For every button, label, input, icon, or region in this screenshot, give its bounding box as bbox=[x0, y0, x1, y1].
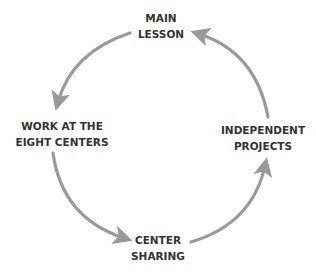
arrow-sharing-to-projects bbox=[191, 166, 265, 242]
arrow-work-to-sharing bbox=[53, 153, 124, 238]
node-independent-projects-line1: INDEPENDENT bbox=[221, 122, 305, 138]
node-work-at-centers: WORK AT THE EIGHT CENTERS bbox=[16, 118, 109, 150]
node-independent-projects: INDEPENDENT PROJECTS bbox=[221, 122, 305, 154]
arrow-projects-to-main bbox=[199, 34, 268, 117]
node-work-at-centers-line2: EIGHT CENTERS bbox=[16, 134, 109, 150]
cycle-diagram: MAIN LESSON WORK AT THE EIGHT CENTERS CE… bbox=[0, 0, 316, 275]
node-main-lesson-line1: MAIN bbox=[138, 10, 184, 26]
node-work-at-centers-line1: WORK AT THE bbox=[16, 118, 109, 134]
node-center-sharing-line2: SHARING bbox=[131, 248, 185, 264]
node-main-lesson-line2: LESSON bbox=[138, 26, 184, 42]
node-center-sharing: CENTER SHARING bbox=[131, 232, 185, 264]
node-main-lesson: MAIN LESSON bbox=[138, 10, 184, 42]
node-center-sharing-line1: CENTER bbox=[131, 232, 185, 248]
node-independent-projects-line2: PROJECTS bbox=[221, 138, 305, 154]
arrow-main-to-work bbox=[58, 33, 130, 102]
